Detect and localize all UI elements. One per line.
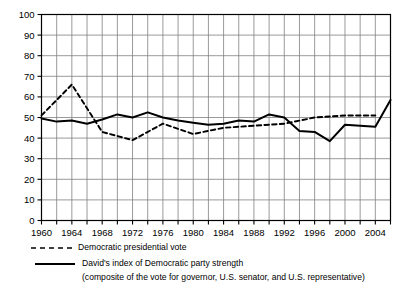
dashed-line-swatch-icon: [30, 242, 74, 254]
y-tick-label: 70: [24, 71, 35, 82]
chart-legend: Democratic presidential vote David's ind…: [0, 238, 409, 289]
x-tick-label: 1992: [274, 227, 295, 238]
y-tick-label: 100: [19, 9, 35, 20]
x-tick-label: 1960: [31, 227, 52, 238]
x-tick-label: 2004: [365, 227, 386, 238]
x-tick-label: 1964: [61, 227, 82, 238]
legend-item-davids-index: David's index of Democratic party streng…: [30, 257, 405, 287]
legend-label-davids-index: David's index of Democratic party streng…: [82, 257, 243, 269]
x-tick-label: 1976: [152, 227, 173, 238]
x-tick-label: 2000: [334, 227, 355, 238]
y-tick-label: 80: [24, 50, 35, 61]
x-tick-label: 1968: [92, 227, 113, 238]
solid-line-swatch-icon: [34, 258, 78, 270]
y-tick-label: 50: [24, 112, 35, 123]
y-tick-label: 60: [24, 91, 35, 102]
y-tick-label: 20: [24, 174, 35, 185]
legend-sublabel-davids-index: (composite of the vote for governor, U.S…: [82, 271, 365, 283]
x-tick-label: 1980: [183, 227, 204, 238]
y-tick-label: 10: [24, 194, 35, 205]
legend-label-presidential-vote: Democratic presidential vote: [78, 241, 186, 253]
y-tick-label: 30: [24, 153, 35, 164]
x-tick-label: 1984: [213, 227, 234, 238]
y-tick-label: 90: [24, 30, 35, 41]
y-tick-label: 0: [29, 215, 34, 226]
x-tick-label: 1996: [304, 227, 325, 238]
x-tick-label: 1988: [243, 227, 264, 238]
x-tick-label: 1972: [122, 227, 143, 238]
y-tick-label: 40: [24, 133, 35, 144]
chart-figure: 0102030405060708090100 19601964196819721…: [0, 0, 409, 289]
legend-item-presidential-vote: Democratic presidential vote: [30, 241, 405, 255]
